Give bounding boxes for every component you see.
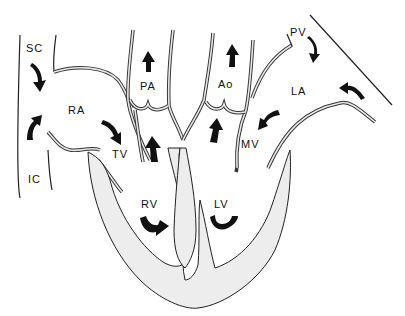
label-right-ventricle: RV <box>141 198 158 210</box>
curved-arrow-icon <box>140 216 169 236</box>
arrow-la-through-mv <box>258 110 280 130</box>
arrow-lv-curl <box>210 215 238 230</box>
label-mitral-valve: MV <box>241 138 260 150</box>
flow-arrow-icon <box>142 51 155 72</box>
pulmonary-vein-wall <box>252 45 292 98</box>
heart-drawing: SC IC RA TV PA Ao PV LA MV RV LV <box>0 0 405 316</box>
svc-inner-wall <box>54 35 56 72</box>
ivc-inner-wall <box>48 150 52 190</box>
flow-arrow-icon <box>209 118 223 143</box>
arrow-lv-outflow <box>209 118 223 143</box>
arrow-rv-curl <box>140 216 169 236</box>
label-tricuspid-valve: TV <box>112 148 128 160</box>
label-pulmonary-artery: PA <box>140 80 156 92</box>
right-atrium-wall <box>54 68 132 108</box>
arrow-pa-up <box>142 51 155 72</box>
flow-arrow-icon <box>101 120 121 145</box>
left-atrium-outer-wall <box>310 15 392 105</box>
arrow-sc-into-ra <box>30 63 46 92</box>
left-atrium-floor-wall <box>268 102 375 168</box>
label-left-atrium: LA <box>291 85 306 97</box>
flow-arrow-icon <box>27 115 42 140</box>
flow-arrow-icon <box>307 36 320 63</box>
flow-arrow-icon <box>30 63 46 92</box>
flow-arrow-icon <box>258 110 280 130</box>
arrow-ra-through-tv <box>101 120 121 145</box>
label-right-atrium: RA <box>68 104 85 116</box>
label-inferior-cava: IC <box>28 173 41 185</box>
flow-arrow-icon <box>226 44 239 67</box>
vena-cava-outer-wall <box>18 35 20 198</box>
curved-arrow-icon <box>210 215 238 230</box>
label-pulmonary-vein: PV <box>290 26 307 38</box>
label-superior-cava: SC <box>26 42 43 54</box>
heart-diagram: SC IC RA TV PA Ao PV LA MV RV LV <box>0 0 405 316</box>
mitral-leaflet <box>236 168 237 172</box>
flow-arrow-icon <box>339 82 365 100</box>
arrow-ao-up <box>226 44 239 67</box>
label-left-ventricle: LV <box>214 198 229 210</box>
arrow-la-inflow <box>339 82 365 100</box>
label-aorta: Ao <box>218 78 233 90</box>
aorta-left-wall <box>183 33 213 140</box>
arrow-ic-into-ra <box>27 115 42 140</box>
arrow-pv-into-la <box>307 36 320 63</box>
